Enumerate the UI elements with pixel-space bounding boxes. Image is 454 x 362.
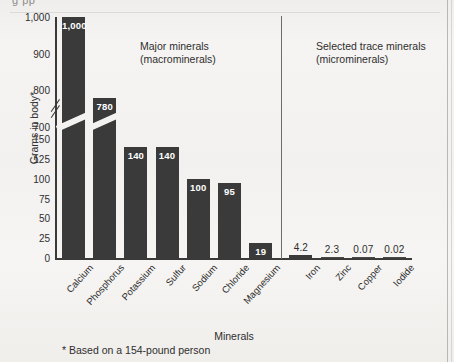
annotation-trace-line2: (microminerals): [316, 53, 426, 66]
x-tick-label-copper: Copper: [355, 262, 384, 293]
chart-page: g pp 1,0009008007001501251007550250 Gram…: [0, 0, 454, 362]
y-axis-title: Grams in body*: [28, 92, 40, 164]
x-tick-label-zinc: Zinc: [333, 262, 353, 283]
bar-potassium[interactable]: 140: [124, 147, 147, 258]
y-tick-label: 1,000: [25, 12, 50, 23]
bar-value-label: 19: [249, 246, 272, 257]
bar-value-label: 140: [156, 150, 179, 161]
bar-iodide[interactable]: 0.02: [383, 257, 406, 259]
bar-phosphorus[interactable]: 780: [93, 98, 116, 258]
bar-zinc[interactable]: 2.3: [321, 257, 344, 259]
bar-value-label: 0.07: [352, 244, 375, 255]
chart-footnote: * Based on a 154-pound person: [62, 344, 210, 356]
page-border-right-outer: [451, 0, 452, 362]
bar-magnesium[interactable]: 19: [249, 243, 272, 258]
page-border-right: [447, 0, 448, 362]
x-tick-label-chloride: Chloride: [219, 262, 251, 296]
bar-sulfur[interactable]: 140: [156, 147, 179, 258]
y-tick-label: 900: [33, 48, 50, 59]
annotation-major-minerals: Major minerals (macrominerals): [140, 40, 216, 66]
annotation-trace-line1: Selected trace minerals: [316, 40, 426, 53]
bar-value-label: 2.3: [321, 244, 344, 255]
bar-value-label: 0.02: [383, 244, 406, 255]
x-axis-title: Minerals: [56, 330, 412, 342]
bar-sodium[interactable]: 100: [187, 179, 210, 258]
annotation-major-line2: (macrominerals): [140, 53, 216, 66]
x-axis-line: [55, 258, 412, 260]
y-tick-label: 100: [33, 173, 50, 184]
bar-value-label: 1,000: [62, 20, 85, 31]
y-tick-label: 50: [39, 213, 50, 224]
bar-calcium[interactable]: 1,000: [62, 17, 85, 258]
y-tick-label: 75: [39, 193, 50, 204]
bar-value-label: 780: [93, 101, 116, 112]
x-tick-label-sodium: Sodium: [190, 262, 220, 293]
annotation-trace-minerals: Selected trace minerals (microminerals): [316, 40, 426, 66]
top-rule-divider: [10, 12, 440, 13]
bar-value-label: 4.2: [289, 242, 312, 253]
y-tick-label: 25: [39, 233, 50, 244]
y-tick-label: 0: [44, 253, 50, 264]
y-axis-ticks: 1,0009008007001501251007550250: [0, 0, 50, 262]
annotation-major-line1: Major minerals: [140, 40, 216, 53]
x-tick-label-iodide: Iodide: [390, 262, 415, 289]
x-tick-label-iron: Iron: [303, 262, 322, 282]
x-tick-label-calcium: Calcium: [64, 262, 95, 295]
group-divider-line: [281, 16, 282, 259]
bar-copper[interactable]: 0.07: [352, 257, 375, 259]
bar-value-label: 140: [124, 150, 147, 161]
bar-value-label: 95: [218, 186, 241, 197]
bar-value-label: 100: [187, 182, 210, 193]
x-tick-label-sulfur: Sulfur: [163, 262, 188, 288]
bar-iron[interactable]: 4.2: [289, 255, 312, 258]
bar-chloride[interactable]: 95: [218, 183, 241, 258]
